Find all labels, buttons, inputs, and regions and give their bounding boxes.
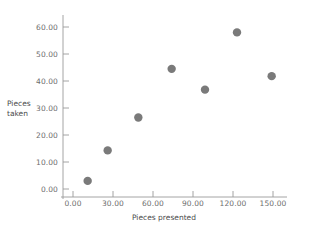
y-tick-label-0: 0.00	[18, 185, 58, 194]
x-tick-label-0: 0.00	[53, 199, 93, 208]
y-tick-label-20: 20.00	[18, 131, 58, 140]
x-tick-label-150: 150.00	[253, 199, 293, 208]
y-axis-title: Pieces taken	[7, 99, 41, 118]
data-point	[201, 85, 209, 93]
y-tick-label-60: 60.00	[18, 23, 58, 32]
axes-group	[61, 15, 287, 199]
y-tick-label-10: 10.00	[18, 158, 58, 167]
x-axis-title: Pieces presented	[104, 213, 224, 222]
plot-canvas	[0, 0, 309, 232]
data-point	[103, 146, 111, 154]
y-tick-label-50: 50.00	[18, 50, 58, 59]
x-tick-label-120: 120.00	[213, 199, 253, 208]
data-points-group	[83, 28, 275, 185]
data-point	[233, 28, 241, 36]
y-axis-title-line2: taken	[7, 109, 41, 119]
data-point	[267, 72, 275, 80]
data-point	[83, 177, 91, 185]
data-point	[134, 113, 142, 121]
tick-marks-group	[63, 27, 273, 197]
data-point	[167, 65, 175, 73]
scatter-chart: 60.00 50.00 40.00 30.00 20.00 10.00 0.00…	[0, 0, 309, 232]
y-axis-title-line1: Pieces	[7, 99, 41, 109]
x-tick-label-30: 30.00	[93, 199, 133, 208]
y-tick-label-40: 40.00	[18, 77, 58, 86]
x-tick-label-60: 60.00	[133, 199, 173, 208]
x-tick-label-90: 90.00	[173, 199, 213, 208]
